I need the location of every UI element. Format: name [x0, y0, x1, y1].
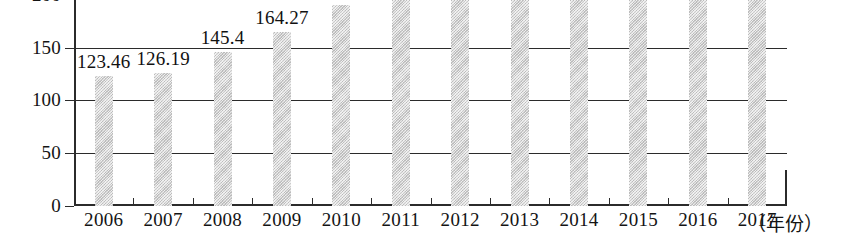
x-category-label-2011: 2011	[382, 209, 421, 231]
bar-2013	[511, 0, 529, 206]
x-category-label-2007: 2007	[144, 209, 183, 231]
x-tick-7	[490, 198, 491, 206]
x-tick-9	[609, 198, 610, 206]
bar-value-label-2009: 164.27	[255, 7, 308, 29]
x-category-label-2014: 2014	[559, 209, 598, 231]
x-tick-1	[133, 198, 134, 206]
gridline-100	[74, 100, 787, 101]
x-tick-6	[431, 198, 432, 206]
x-tick-8	[549, 198, 550, 206]
bar-2008	[214, 52, 232, 206]
x-category-label-2015: 2015	[619, 209, 658, 231]
bar-chart: 050100150200 123.46126.19145.4164.27 200…	[0, 0, 841, 236]
plot-area: 050100150200 123.46126.19145.4164.27	[74, 0, 787, 206]
y-tick-100	[65, 100, 74, 101]
x-category-label-2009: 2009	[262, 209, 301, 231]
x-tick-2	[193, 198, 194, 206]
bar-value-label-2007: 126.19	[136, 48, 189, 70]
y-tick-50	[65, 153, 74, 154]
bar-2006	[95, 76, 113, 206]
x-tick-11	[728, 198, 729, 206]
y-axis-line	[74, 0, 76, 206]
y-tick-0	[65, 206, 74, 207]
bar-value-label-2006: 123.46	[77, 51, 130, 73]
bar-2016	[689, 0, 707, 206]
bar-2017	[748, 0, 766, 206]
y-tick-label-150: 150	[32, 37, 61, 59]
bar-2009	[273, 32, 291, 206]
y-tick-label-100: 100	[32, 89, 61, 111]
gridline-50	[74, 153, 787, 154]
x-tick-3	[252, 198, 253, 206]
bar-value-label-2008: 145.4	[201, 27, 245, 49]
x-category-label-2010: 2010	[322, 209, 361, 231]
x-category-label-2006: 2006	[84, 209, 123, 231]
bar-2014	[570, 0, 588, 206]
x-category-label-2012: 2012	[441, 209, 480, 231]
y-tick-label-0: 0	[51, 195, 61, 217]
bar-2015	[629, 0, 647, 206]
x-tick-10	[668, 198, 669, 206]
y-tick-label-50: 50	[42, 142, 61, 164]
x-category-label-2013: 2013	[500, 209, 539, 231]
bar-2012	[451, 0, 469, 206]
x-axis-title: （年份）	[747, 209, 823, 236]
x-tick-5	[371, 198, 372, 206]
x-axis-right-cap	[785, 170, 787, 206]
x-tick-4	[312, 198, 313, 206]
y-tick-150	[65, 48, 74, 49]
bar-2007	[154, 73, 172, 206]
y-tick-label-200: 200	[32, 0, 61, 6]
bar-2011	[392, 0, 410, 206]
x-category-label-2016: 2016	[678, 209, 717, 231]
bar-2010	[332, 5, 350, 206]
x-category-label-2008: 2008	[203, 209, 242, 231]
